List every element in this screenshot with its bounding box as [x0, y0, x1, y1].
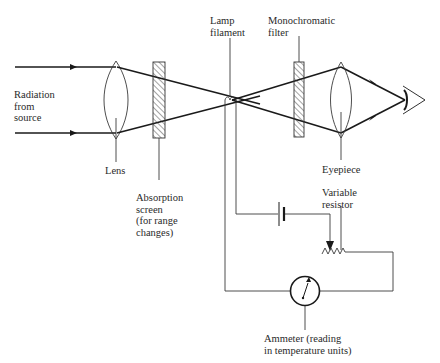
- label-lens: Lens: [105, 165, 125, 177]
- lamp-filament: [225, 38, 236, 108]
- label-eyepiece: Eyepiece: [322, 164, 360, 176]
- monochromatic-filter: [294, 36, 304, 137]
- eye-icon: [403, 86, 425, 114]
- arrow-icon: [70, 64, 77, 136]
- diverging-rays: [232, 67, 405, 133]
- lens: [104, 61, 128, 162]
- label-monochromatic-filter: Monochromatic filter: [268, 15, 335, 38]
- eyepiece: [331, 62, 352, 160]
- label-variable-resistor: Variable resistor: [322, 187, 357, 210]
- diagram-canvas: [0, 0, 440, 363]
- absorption-screen: [153, 62, 165, 180]
- converging-rays: [117, 67, 260, 133]
- optical-pyrometer-diagram: Radiation from source Lens Absorption sc…: [0, 0, 440, 363]
- label-absorption-screen: Absorption screen (for range changes): [136, 192, 183, 238]
- variable-resistor: [322, 248, 345, 254]
- circuit-wires: [225, 108, 393, 330]
- label-radiation-from-source: Radiation from source: [14, 89, 55, 124]
- label-ammeter: Ammeter (reading in temperature units): [264, 333, 351, 356]
- battery-icon: [279, 202, 284, 226]
- label-lamp-filament: Lamp filament: [210, 15, 245, 38]
- ammeter: [291, 277, 320, 306]
